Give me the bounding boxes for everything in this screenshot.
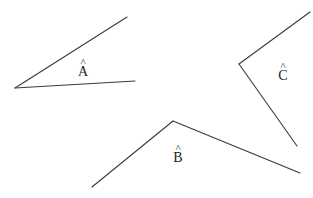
angle-lines: [0, 0, 313, 198]
angle-b-letter: B: [173, 151, 182, 165]
angle-b: [92, 121, 300, 187]
angle-a-arm-2: [15, 81, 135, 88]
angle-b-arm-1: [92, 121, 173, 187]
angle-a-letter: A: [78, 65, 88, 79]
angle-c: [239, 12, 310, 146]
angle-c-arm-1: [239, 12, 310, 64]
angle-b-arm-2: [173, 121, 300, 173]
angle-c-arm-2: [239, 64, 297, 146]
angle-a-label: ^ A: [78, 59, 88, 79]
angle-a-arm-1: [15, 17, 127, 88]
angle-diagram: ^ A ^ B ^ C: [0, 0, 313, 198]
angle-c-label: ^ C: [278, 63, 287, 83]
angle-c-letter: C: [278, 69, 287, 83]
angle-a: [15, 17, 135, 88]
angle-b-label: ^ B: [173, 145, 182, 165]
